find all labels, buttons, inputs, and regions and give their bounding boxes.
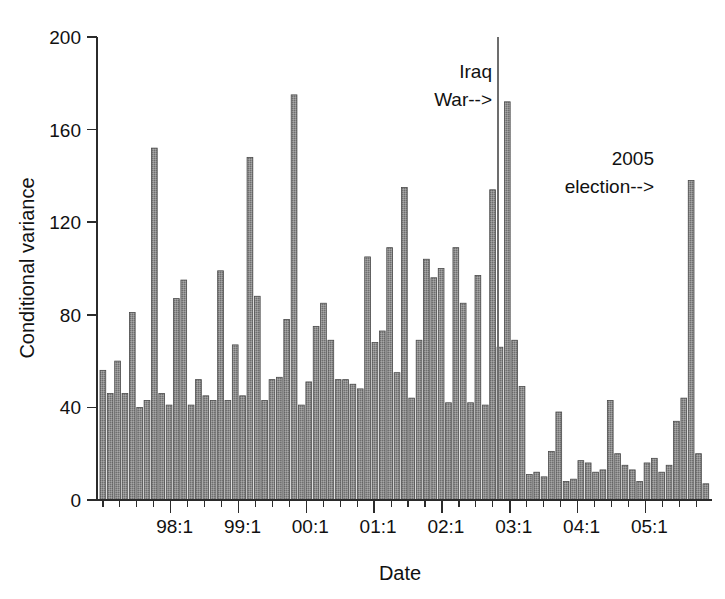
- bar: [328, 340, 334, 500]
- bar: [365, 257, 371, 500]
- bar: [107, 394, 113, 500]
- bar: [401, 187, 407, 500]
- bar: [482, 405, 488, 500]
- bar: [394, 373, 400, 500]
- bar: [181, 280, 187, 500]
- bar: [196, 380, 202, 500]
- bar: [453, 248, 459, 500]
- bar: [424, 259, 430, 500]
- bar: [629, 470, 635, 500]
- bar: [225, 400, 231, 500]
- x-axis-tick-label: 02:1: [427, 516, 464, 537]
- chart-figure: 04080120160200 98:199:100:101:102:103:10…: [0, 0, 725, 599]
- y-axis-title: Conditional variance: [16, 177, 38, 358]
- bar: [652, 458, 658, 500]
- bar: [174, 299, 180, 500]
- bar: [335, 380, 341, 500]
- bar: [438, 269, 444, 501]
- bar: [563, 481, 569, 500]
- bar: [696, 454, 702, 500]
- bar: [637, 481, 643, 500]
- bar: [615, 454, 621, 500]
- bar: [431, 278, 437, 500]
- x-axis-tick-label: 01:1: [360, 516, 397, 537]
- annotation-iraq-war-line1: War-->: [434, 89, 492, 110]
- bar: [593, 472, 599, 500]
- bar: [475, 275, 481, 500]
- x-axis-tick-label: 04:1: [563, 516, 600, 537]
- annotation-election-2005-line1: election-->: [565, 176, 654, 197]
- x-axis-tick-label: 99:1: [224, 516, 261, 537]
- bar: [666, 465, 672, 500]
- bar: [578, 461, 584, 500]
- bar: [600, 470, 606, 500]
- bar: [129, 312, 135, 500]
- bar: [585, 463, 591, 500]
- bar: [659, 472, 665, 500]
- bar: [549, 451, 555, 500]
- bar: [313, 326, 319, 500]
- bar: [115, 361, 121, 500]
- bar: [416, 340, 422, 500]
- x-axis-tick-label: 00:1: [292, 516, 329, 537]
- bar: [681, 398, 687, 500]
- bar: [232, 345, 238, 500]
- bar: [534, 472, 540, 500]
- bar: [409, 398, 415, 500]
- x-axis-title: Date: [379, 562, 421, 584]
- bar: [622, 465, 628, 500]
- bar: [218, 271, 224, 500]
- y-axis-ticks: 04080120160200: [49, 27, 97, 511]
- bar: [100, 370, 106, 500]
- bar: [541, 477, 547, 500]
- bar: [276, 377, 282, 500]
- bar: [490, 190, 496, 500]
- bar: [122, 394, 128, 500]
- bar: [254, 296, 260, 500]
- bar: [299, 405, 305, 500]
- bar: [262, 400, 268, 500]
- x-axis-tick-label: 03:1: [495, 516, 532, 537]
- y-axis-tick-label: 120: [49, 212, 81, 233]
- bar: [137, 407, 143, 500]
- bar: [269, 380, 275, 500]
- bar: [240, 396, 246, 500]
- bar: [607, 400, 613, 500]
- bar: [526, 475, 532, 500]
- bar: [159, 394, 165, 500]
- bar: [644, 463, 650, 500]
- bar: [571, 479, 577, 500]
- bar: [321, 303, 327, 500]
- annotations-group: IraqWar-->2005election-->: [434, 61, 654, 197]
- bar: [468, 403, 474, 500]
- bar: [247, 157, 253, 500]
- bar: [674, 421, 680, 500]
- bar: [504, 102, 510, 500]
- annotation-iraq-war-line0: Iraq: [459, 61, 492, 82]
- conditional-variance-bar-chart: 04080120160200 98:199:100:101:102:103:10…: [0, 0, 725, 599]
- bar: [357, 389, 363, 500]
- bar: [203, 396, 209, 500]
- x-axis-tick-label: 05:1: [631, 516, 668, 537]
- annotation-election-2005-line0: 2005: [612, 148, 654, 169]
- y-axis-tick-label: 160: [49, 120, 81, 141]
- bar: [512, 340, 518, 500]
- y-axis-tick-label: 80: [60, 305, 81, 326]
- bar: [284, 319, 290, 500]
- bar: [210, 400, 216, 500]
- bar: [446, 403, 452, 500]
- y-axis-tick-label: 40: [60, 397, 81, 418]
- bar: [291, 95, 297, 500]
- y-axis-tick-label: 200: [49, 27, 81, 48]
- bar: [688, 181, 694, 500]
- bar: [703, 484, 709, 500]
- bar: [306, 382, 312, 500]
- x-axis-ticks: 98:199:100:101:102:103:104:105:1: [103, 501, 696, 537]
- x-axis-tick-label: 98:1: [156, 516, 193, 537]
- bar: [151, 148, 157, 500]
- bar: [519, 387, 525, 500]
- bar: [188, 405, 194, 500]
- bar: [166, 405, 172, 500]
- bar: [372, 343, 378, 500]
- bar: [343, 380, 349, 500]
